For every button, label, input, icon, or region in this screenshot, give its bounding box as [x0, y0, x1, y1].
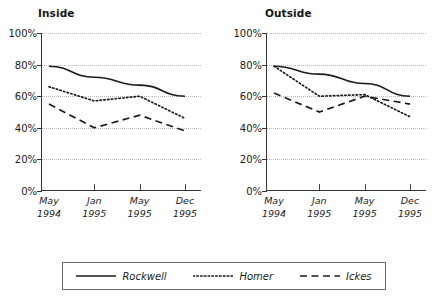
x-tick-label-month: Dec: [158, 195, 212, 208]
legend-swatch-solid: [76, 271, 116, 281]
y-tick-label: 100%: [233, 28, 262, 39]
y-tick-label: 40%: [15, 122, 37, 133]
x-tick-label-year: 1995: [158, 208, 212, 221]
y-tick-label: 40%: [240, 122, 262, 133]
y-tick-label: 20%: [240, 154, 262, 165]
plot-area-outside: 100%80%60%40%20%0% May1994Jan1995May1995…: [225, 33, 443, 219]
y-tick-label: 20%: [15, 154, 37, 165]
y-tick-label: 60%: [240, 91, 262, 102]
x-tick-label-month: Dec: [383, 195, 437, 208]
chart-panel-inside: Inside 100%80%60%40%20%0% May1994Jan1995…: [0, 0, 218, 252]
y-tick-label: 80%: [240, 59, 262, 70]
series-line-rockwell: [49, 66, 185, 96]
chart-panels: Inside 100%80%60%40%20%0% May1994Jan1995…: [0, 0, 443, 252]
series-lines-outside: [266, 33, 426, 191]
series-lines-inside: [41, 33, 201, 191]
chart-legend: RockwellHomerIckes: [62, 262, 386, 290]
y-tick-label: 100%: [8, 28, 37, 39]
series-line-ickes: [49, 104, 185, 131]
legend-label: Homer: [239, 271, 273, 282]
legend-label: Rockwell: [122, 271, 166, 282]
legend-swatch-dashed: [300, 271, 340, 281]
panel-title-outside: Outside: [265, 7, 312, 19]
y-axis-labels-outside: 100%80%60%40%20%0%: [225, 33, 265, 191]
y-tick-label: 60%: [15, 91, 37, 102]
legend-label: Ickes: [346, 271, 372, 282]
legend-items: RockwellHomerIckes: [63, 263, 385, 289]
x-tick-label: Dec1995: [158, 195, 212, 220]
x-axis-labels-outside: May1994Jan1995May1995Dec1995: [266, 195, 426, 229]
y-tick-mark: [262, 191, 267, 192]
y-tick-label: 80%: [15, 59, 37, 70]
series-line-rockwell: [274, 66, 410, 96]
y-axis-labels-inside: 100%80%60%40%20%0%: [0, 33, 40, 191]
x-axis-labels-inside: May1994Jan1995May1995Dec1995: [41, 195, 201, 229]
y-tick-mark: [37, 191, 42, 192]
legend-item-rockwell: Rockwell: [76, 271, 166, 282]
plot-area-inside: 100%80%60%40%20%0% May1994Jan1995May1995…: [0, 33, 218, 219]
x-tick-label-year: 1995: [383, 208, 437, 221]
chart-panel-outside: Outside 100%80%60%40%20%0% May1994Jan199…: [225, 0, 443, 252]
legend-item-ickes: Ickes: [300, 271, 372, 282]
panel-title-inside: Inside: [38, 7, 74, 19]
legend-item-homer: Homer: [193, 271, 273, 282]
legend-swatch-dotted: [193, 271, 233, 281]
x-tick-label: Dec1995: [383, 195, 437, 220]
